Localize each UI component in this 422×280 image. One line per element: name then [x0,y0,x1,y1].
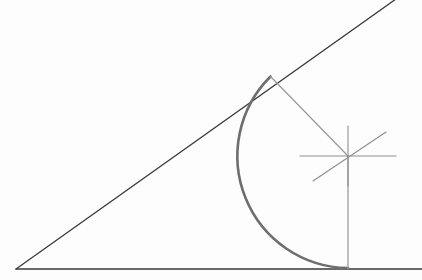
geometric-figure-canvas [0,0,422,280]
figure-background [0,0,422,280]
construction-drawing [0,0,422,280]
